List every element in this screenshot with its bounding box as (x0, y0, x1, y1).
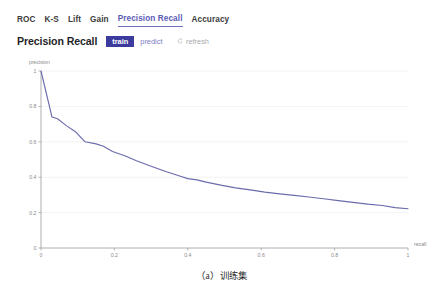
svg-text:0: 0 (40, 252, 43, 258)
toggle-train[interactable]: train (106, 36, 134, 47)
svg-text:0.4: 0.4 (29, 174, 36, 180)
tab-lift[interactable]: Lift (68, 14, 81, 27)
page-title: Precision Recall (17, 35, 97, 47)
tab-accuracy[interactable]: Accuracy (192, 14, 230, 27)
refresh-label: refresh (186, 37, 209, 46)
svg-text:0.2: 0.2 (29, 210, 36, 216)
svg-text:0.6: 0.6 (258, 252, 265, 258)
svg-text:0.4: 0.4 (184, 252, 191, 258)
svg-text:0.6: 0.6 (29, 139, 36, 145)
panel-header: Precision Recall train predict refresh (17, 34, 209, 48)
figure-caption: （a）训练集 (0, 268, 444, 282)
svg-text:1: 1 (34, 68, 37, 74)
analysis-tab-bar: ROC K-S Lift Gain Precision Recall Accur… (17, 11, 229, 27)
svg-text:0.8: 0.8 (331, 252, 338, 258)
x-axis-label: recall (414, 241, 426, 247)
svg-text:0.8: 0.8 (29, 103, 36, 109)
refresh-button[interactable]: refresh (177, 37, 209, 46)
x-axis-ticks: 00.20.40.60.81 (40, 248, 410, 258)
svg-text:0: 0 (34, 245, 37, 251)
precision-recall-curve-train (41, 71, 408, 209)
tab-precision-recall[interactable]: Precision Recall (118, 13, 183, 27)
toggle-predict[interactable]: predict (134, 36, 168, 47)
y-axis-label: precision (29, 59, 50, 65)
chart-gridlines (41, 71, 408, 213)
tab-ks[interactable]: K-S (45, 14, 59, 27)
precision-recall-chart: 00.20.40.60.81 00.20.40.60.81 precision … (0, 52, 444, 262)
svg-text:1: 1 (407, 252, 410, 258)
dataset-toggle-group: train predict (106, 36, 168, 47)
tab-roc[interactable]: ROC (17, 14, 36, 27)
refresh-circular-arrow-icon (177, 38, 183, 44)
tab-gain[interactable]: Gain (90, 14, 109, 27)
svg-text:0.2: 0.2 (111, 252, 118, 258)
y-axis-ticks: 00.20.40.60.81 (29, 68, 41, 251)
chart-svg: 00.20.40.60.81 00.20.40.60.81 precision … (0, 52, 444, 262)
